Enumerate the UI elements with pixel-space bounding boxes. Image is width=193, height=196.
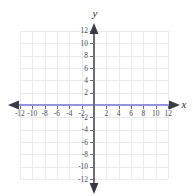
y-tick-label: -12 xyxy=(78,175,88,184)
y-axis-top-arrowhead-icon xyxy=(90,23,99,34)
y-tick-label: -6 xyxy=(82,138,88,147)
y-axis-bottom-arrowhead-icon xyxy=(90,183,99,194)
y-tick-label: -2 xyxy=(82,113,88,122)
y-tick-label: 12 xyxy=(81,26,89,35)
coordinate-plane-figure: -12-10-8-6-4-224681012 12108642-2-4-6-8-… xyxy=(0,0,193,196)
x-tick-label: 6 xyxy=(129,109,133,118)
y-tick-label: 10 xyxy=(81,39,89,48)
x-tick-label: -8 xyxy=(41,109,47,118)
y-tick-label: 4 xyxy=(84,76,88,85)
y-tick-label: 2 xyxy=(84,88,88,97)
coordinate-plane-svg: -12-10-8-6-4-224681012 12108642-2-4-6-8-… xyxy=(0,0,193,196)
x-tick-label: 10 xyxy=(152,109,160,118)
y-tick-label: 8 xyxy=(84,51,88,60)
y-axis-label: y xyxy=(92,7,98,19)
y-tick-label: 6 xyxy=(84,64,88,73)
y-tick-label: -8 xyxy=(82,150,88,159)
x-tick-label: -6 xyxy=(54,109,60,118)
x-tick-label: -10 xyxy=(27,109,37,118)
x-tick-label: 8 xyxy=(142,109,146,118)
x-axis-label: x xyxy=(181,98,187,110)
y-tick-label: -10 xyxy=(78,162,88,171)
x-tick-label: 4 xyxy=(117,109,121,118)
x-tick-label: 2 xyxy=(105,109,109,118)
x-tick-label: 12 xyxy=(164,109,172,118)
x-tick-label: -12 xyxy=(15,109,25,118)
y-tick-label: -4 xyxy=(82,125,88,134)
x-tick-label: -4 xyxy=(66,109,72,118)
y-axis xyxy=(90,23,99,194)
